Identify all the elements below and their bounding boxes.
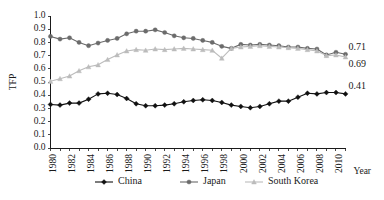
data-point [238,104,243,109]
series-line [51,30,346,55]
series-south-korea [48,43,348,83]
series-end-labels: 0.410.710.69 [349,41,367,92]
data-point [295,95,300,100]
x-tick-label: 1990 [143,154,153,173]
data-point [77,101,82,106]
data-point [191,36,195,40]
data-point [267,101,272,106]
data-point [229,103,234,108]
series-china [48,90,348,110]
series-layer [48,28,348,110]
data-point [115,92,120,97]
y-tick-label: 0.0 [34,142,46,152]
data-point [191,98,196,103]
tfp-line-chart: 0.00.10.20.30.40.50.60.70.80.91.0 198019… [0,0,384,200]
end-label-japan: 0.71 [349,41,367,52]
data-point [77,40,81,44]
x-axis-title: Year [354,166,372,176]
data-point [67,101,72,106]
data-point [96,41,100,45]
data-point [314,91,319,96]
y-tick-label: 0.9 [34,23,46,33]
data-point [210,40,214,44]
y-tick-label: 0.5 [34,76,46,86]
x-tick-label: 2010 [334,154,344,173]
data-point [187,180,191,184]
legend-label: Japan [203,175,226,186]
data-point [324,90,329,95]
x-tick-label: 1982 [67,154,77,173]
data-point [276,99,281,104]
y-tick-label: 0.1 [34,129,46,139]
legend-item-japan: Japan [180,175,226,186]
data-point [163,30,167,34]
data-point [144,29,148,33]
end-label-china: 0.41 [349,80,367,91]
y-tick-label: 0.6 [34,63,46,73]
data-point [210,98,215,103]
data-point [96,91,101,96]
data-point [86,44,90,48]
data-point [102,180,107,185]
data-point [48,34,52,38]
legend-label: South Korea [268,175,319,186]
data-point [134,101,139,106]
data-point [86,97,91,102]
data-point [343,91,348,96]
x-tick-label: 2006 [296,154,306,173]
data-point [105,57,110,61]
data-point [181,99,186,104]
data-point [124,96,129,101]
x-tick-label: 1994 [181,154,191,173]
y-tick-label: 0.4 [34,89,46,99]
data-point [219,100,224,105]
data-point [105,91,110,96]
x-tick-label: 1980 [48,154,58,173]
x-tick-label: 1988 [124,154,134,173]
data-point [286,99,291,104]
data-point [58,103,63,108]
data-point [333,90,338,95]
series-japan [48,28,347,57]
x-axis-ticks: 1980198219841986198819901992199419961998… [48,148,345,173]
data-point [200,97,205,102]
legend-item-south-korea: South Korea [245,175,319,186]
data-point [48,102,53,107]
data-point [257,104,262,109]
data-point [172,101,177,106]
data-point [220,44,224,48]
series-line [51,93,346,108]
data-point [153,103,158,108]
data-point [134,29,138,33]
data-point [182,36,186,40]
y-tick-label: 0.7 [34,50,46,60]
y-axis-title: TFP [8,74,18,90]
y-tick-label: 0.8 [34,37,46,47]
y-tick-label: 1.0 [34,10,46,20]
data-point [172,34,176,38]
data-point [105,38,109,42]
series-line [51,46,346,82]
data-point [115,36,119,40]
y-tick-label: 0.3 [34,103,46,113]
data-point [58,37,62,41]
x-tick-label: 1984 [86,154,96,173]
data-point [153,28,157,32]
data-point [162,103,167,108]
data-point [67,36,71,40]
x-tick-label: 2000 [239,154,249,173]
x-tick-label: 1996 [200,154,210,173]
x-tick-label: 1986 [105,154,115,173]
chart-figure: 0.00.10.20.30.40.50.60.70.80.91.0 198019… [0,0,384,200]
x-tick-label: 2004 [277,154,287,173]
y-axis-ticks: 0.00.10.20.30.40.50.60.70.80.91.0 [34,10,51,152]
y-tick-label: 0.2 [34,116,46,126]
data-point [305,91,310,96]
data-point [67,74,72,78]
chart-legend: ChinaJapanSouth Korea [95,175,319,186]
x-tick-label: 2008 [315,154,325,173]
data-point [201,38,205,42]
data-point [143,103,148,108]
x-tick-label: 2002 [258,154,268,173]
x-tick-label: 1998 [219,154,229,173]
